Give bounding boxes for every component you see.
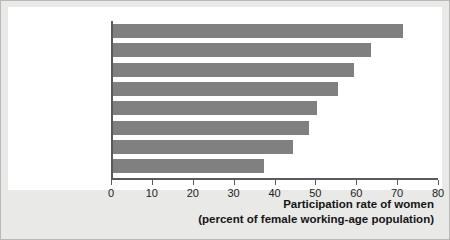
- x-tick-mark: [193, 180, 194, 185]
- x-tick-mark: [356, 180, 357, 185]
- bar: [113, 121, 309, 135]
- bar: [113, 63, 354, 77]
- x-axis-title: Participation rate of women (percent of …: [8, 197, 442, 227]
- x-tick-mark: [438, 180, 439, 185]
- plot-area: 01020304050607080 IcelandNorwayUnited St…: [8, 7, 442, 190]
- x-tick-mark: [234, 180, 235, 185]
- x-tick-mark: [397, 180, 398, 185]
- bar: [113, 140, 293, 154]
- bar: [113, 82, 338, 96]
- x-axis-title-line-2: (percent of female working-age populatio…: [8, 212, 434, 227]
- bar: [113, 43, 371, 57]
- bar: [113, 101, 317, 115]
- bar: [113, 159, 264, 173]
- x-tick-mark: [111, 180, 112, 185]
- chart-figure: 01020304050607080 IcelandNorwayUnited St…: [0, 0, 450, 240]
- x-tick-mark: [315, 180, 316, 185]
- x-axis-title-line-1: Participation rate of women: [8, 197, 434, 212]
- x-tick-mark: [152, 180, 153, 185]
- x-tick-mark: [275, 180, 276, 185]
- bar: [113, 24, 403, 38]
